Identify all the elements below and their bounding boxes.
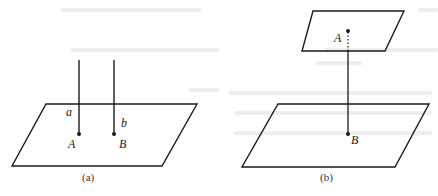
label-line-a: a — [66, 106, 72, 118]
label-line-b: b — [121, 117, 127, 129]
upper-plane — [302, 11, 404, 51]
point-A — [77, 132, 81, 136]
geometry-diagram — [0, 0, 438, 196]
point-A — [346, 29, 350, 33]
label-point-B-b: B — [351, 134, 358, 146]
label-point-A: A — [68, 138, 75, 150]
point-B — [346, 132, 350, 136]
caption-a: (a) — [82, 172, 94, 183]
plane-a — [12, 104, 197, 166]
point-B — [112, 132, 116, 136]
label-point-A-b: A — [334, 32, 341, 44]
figure-a — [12, 60, 197, 166]
lower-plane — [242, 104, 429, 167]
label-point-B: B — [119, 138, 126, 150]
caption-b: (b) — [320, 172, 333, 183]
